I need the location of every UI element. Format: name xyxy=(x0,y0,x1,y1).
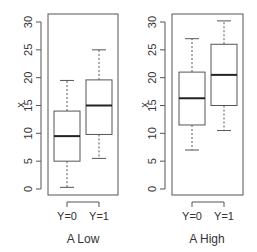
box-Y=1 xyxy=(86,50,112,159)
y-tick-label: 5 xyxy=(146,158,158,164)
box-Y=0 xyxy=(54,80,80,187)
y-tick-label: 0 xyxy=(22,186,34,192)
boxplot-figure: 051015202530xY=0Y=1A Low051015202530xY=0… xyxy=(0,0,257,252)
y-tick-label: 10 xyxy=(22,127,34,139)
boxplot-panel-1: 051015202530xY=0Y=1A High xyxy=(138,14,243,246)
panel-xlabel: A Low xyxy=(67,232,100,246)
panel-xlabel: A High xyxy=(189,232,224,246)
y-tick-label: 30 xyxy=(22,16,34,28)
y-tick-label: 5 xyxy=(22,158,34,164)
box-Y=1 xyxy=(211,21,237,131)
y-tick-label: 25 xyxy=(146,44,158,56)
y-axis-label: x xyxy=(14,102,26,108)
y-tick-label: 25 xyxy=(22,44,34,56)
x-tick-label: Y=1 xyxy=(89,210,109,222)
y-tick-label: 20 xyxy=(146,72,158,84)
x-tick-label: Y=1 xyxy=(214,210,234,222)
y-axis-label: x xyxy=(138,102,150,108)
boxplot-panel-0: 051015202530xY=0Y=1A Low xyxy=(14,14,118,246)
y-tick-label: 10 xyxy=(146,127,158,139)
y-tick-label: 20 xyxy=(22,72,34,84)
box-Y=0 xyxy=(179,39,205,150)
x-tick-label: Y=0 xyxy=(182,210,202,222)
x-tick-label: Y=0 xyxy=(57,210,77,222)
iqr-box xyxy=(86,80,112,135)
y-tick-label: 30 xyxy=(146,16,158,28)
y-tick-label: 0 xyxy=(146,186,158,192)
